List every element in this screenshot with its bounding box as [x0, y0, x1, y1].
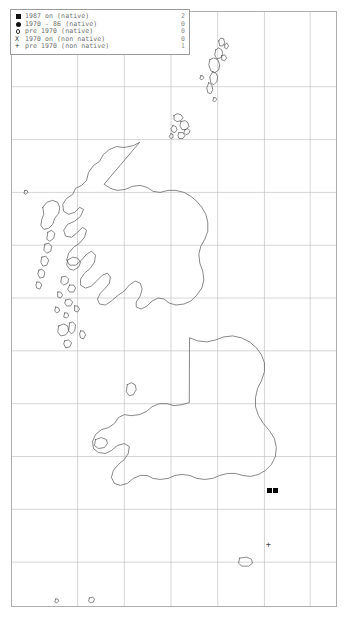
map-marker-filled-square — [273, 488, 278, 493]
england-wales-mainland — [93, 336, 277, 485]
legend-count: 1 — [169, 43, 185, 51]
distribution-map-page: + 1987 on (native)21970 - 86 (native)0pr… — [0, 0, 349, 630]
legend-rows: 1987 on (native)21970 - 86 (native)0pre … — [15, 13, 185, 51]
isle-of-man — [126, 383, 136, 396]
filled-square-icon — [15, 13, 25, 21]
isle-of-wight — [239, 557, 253, 566]
scotland-mainland — [63, 143, 208, 309]
map-frame: + — [11, 11, 337, 607]
shetland-north — [219, 38, 225, 46]
map-legend: 1987 on (native)21970 - 86 (native)0pre … — [10, 9, 190, 55]
uk-coastline — [12, 12, 336, 606]
filled-circle-icon — [15, 21, 25, 29]
map-marker-plus: + — [266, 541, 271, 549]
map-marker-filled-square — [267, 488, 272, 493]
plus-icon: + — [15, 43, 25, 51]
legend-row: +pre 1970 (non native)1 — [15, 43, 185, 51]
legend-label: pre 1970 (non native) — [25, 43, 169, 51]
anglesey — [94, 438, 107, 449]
